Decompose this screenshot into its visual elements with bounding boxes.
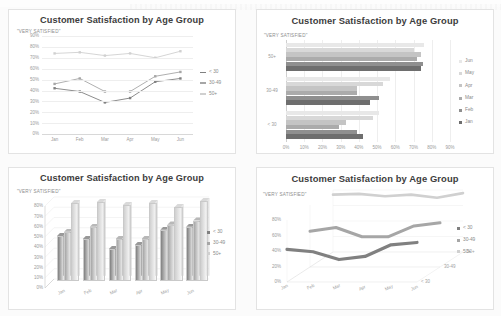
- bar: [286, 100, 370, 104]
- depth-tick: < 30: [421, 279, 430, 284]
- legend-item[interactable]: 30-49: [200, 81, 221, 86]
- bar: [286, 57, 417, 61]
- page-title: Customer Satisfaction by Age Group: [9, 173, 235, 183]
- y-tick: 20%: [17, 110, 39, 115]
- line-series-group: [42, 36, 193, 134]
- bar: [286, 134, 363, 138]
- y-tick: 10%: [17, 121, 39, 126]
- y-tick: 60%: [17, 66, 39, 71]
- legend-item[interactable]: < 30: [200, 70, 221, 75]
- legend-label: 50+: [213, 252, 221, 257]
- bar: [286, 66, 421, 70]
- legend-item[interactable]: < 30: [207, 230, 225, 235]
- legend-swatch-icon: [207, 252, 210, 255]
- y-tick: 90%: [17, 33, 39, 38]
- y-tick: 20%: [261, 264, 281, 269]
- legend-item[interactable]: 50+: [200, 92, 221, 97]
- chart-panel-hbar[interactable]: Customer Satisfaction by Age Group "VERY…: [256, 9, 494, 154]
- bar-side: [103, 199, 106, 276]
- bar: [286, 125, 339, 129]
- legend-swatch-icon: [200, 93, 206, 95]
- legend[interactable]: < 3030-4950+: [457, 226, 475, 261]
- legend-swatch-icon: [459, 97, 462, 100]
- y-tick: 10%: [21, 275, 43, 280]
- x-tick: Mar: [110, 291, 130, 296]
- legend-label: < 30: [213, 230, 222, 235]
- x-tick: Jun: [411, 287, 431, 292]
- x-tick: Apr: [359, 287, 379, 292]
- depth-tick: 30-49: [444, 264, 456, 269]
- axis-note: "VERY SATISFIED": [264, 33, 307, 38]
- bar: [286, 52, 421, 56]
- x-tick: Apr: [136, 291, 156, 296]
- category-tick: < 30: [261, 122, 283, 127]
- category-tick: 50+: [261, 54, 283, 59]
- bar: [286, 116, 373, 120]
- bar: [286, 82, 383, 86]
- legend-label: < 30: [463, 226, 472, 231]
- y-tick: 30%: [17, 99, 39, 104]
- y-tick: 40%: [17, 88, 39, 93]
- x-tick: Jun: [169, 137, 191, 142]
- y-tick: 0%: [21, 285, 43, 290]
- x-tick: 90%: [439, 145, 461, 150]
- legend-label: 30-49: [463, 238, 475, 243]
- legend-swatch-icon: [457, 227, 460, 230]
- legend-item[interactable]: 50+: [457, 250, 475, 255]
- plot-area: [42, 36, 193, 134]
- legend-swatch-icon: [459, 60, 462, 63]
- page-title: Customer Satisfaction by Age Group: [257, 173, 493, 184]
- legend[interactable]: < 3030-4950+: [207, 230, 225, 262]
- x-tick: May: [385, 287, 405, 292]
- x-tick: Jun: [187, 291, 207, 296]
- axis-note: "VERY SATISFIED": [17, 189, 60, 194]
- y-tick: 20%: [21, 265, 43, 270]
- legend-item[interactable]: Jun: [459, 59, 474, 64]
- legend-item[interactable]: 30-49: [457, 238, 475, 243]
- legend-swatch-icon: [457, 239, 460, 242]
- y-tick: 80%: [17, 44, 39, 49]
- legend-swatch-icon: [207, 242, 210, 245]
- legend-swatch-icon: [459, 121, 462, 124]
- x-tick: Jan: [44, 137, 66, 142]
- chart-panel-line3d[interactable]: Customer Satisfaction by Age Group "VERY…: [256, 167, 494, 310]
- grid-line: [432, 40, 433, 142]
- x-tick: Mar: [94, 137, 116, 142]
- y-tick: 80%: [261, 217, 281, 222]
- legend-label: 50+: [463, 250, 471, 255]
- legend[interactable]: JunMayAprMarFebJan: [459, 59, 474, 133]
- x-tick: May: [161, 291, 181, 296]
- bar: [286, 77, 390, 81]
- chart-panel-line[interactable]: Customer Satisfaction by Age Group "VERY…: [8, 9, 236, 154]
- x-tick: Feb: [307, 286, 327, 291]
- legend-label: Jun: [465, 59, 473, 64]
- legend-label: 50+: [209, 92, 217, 97]
- bar: [286, 43, 424, 47]
- legend-swatch-icon: [207, 231, 210, 234]
- x-tick: Jan: [58, 291, 78, 296]
- bar-side: [129, 202, 132, 276]
- x-tick: Apr: [119, 137, 141, 142]
- legend-item[interactable]: Apr: [459, 84, 474, 89]
- legend-label: Feb: [465, 108, 473, 113]
- legend-item[interactable]: 50+: [207, 252, 225, 257]
- y-tick: 40%: [261, 248, 281, 253]
- chart-panel-column3d[interactable]: Customer Satisfaction by Age Group "VERY…: [8, 167, 236, 310]
- bar: [286, 96, 379, 100]
- legend-item[interactable]: May: [459, 71, 474, 76]
- line-series-group-3d: [267, 198, 472, 298]
- legend-item[interactable]: Jan: [459, 120, 474, 125]
- chart-sheet: Customer Satisfaction by Age Group "VERY…: [0, 0, 501, 316]
- legend[interactable]: < 3030-4950+: [200, 70, 221, 102]
- legend-item[interactable]: Feb: [459, 108, 474, 113]
- legend-item[interactable]: 30-49: [207, 241, 225, 246]
- y-tick: 50%: [21, 234, 43, 239]
- page-title: Customer Satisfaction by Age Group: [257, 15, 493, 26]
- y-tick: 60%: [21, 224, 43, 229]
- legend-label: < 30: [209, 70, 218, 75]
- x-tick: Feb: [69, 137, 91, 142]
- y-tick: 30%: [21, 255, 43, 260]
- legend-item[interactable]: Mar: [459, 96, 474, 101]
- category-tick: 30-49: [261, 88, 283, 93]
- legend-item[interactable]: < 30: [457, 226, 475, 231]
